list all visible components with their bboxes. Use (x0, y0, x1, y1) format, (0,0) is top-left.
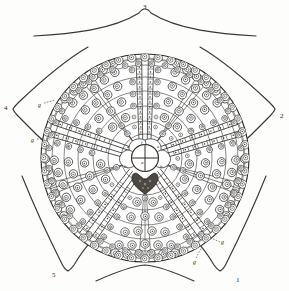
part-label-g-bottom: g (193, 259, 196, 265)
figure-number-5: 5 (52, 272, 56, 279)
figure-number-3: 3 (143, 4, 147, 11)
part-label-f-apical: f (141, 140, 142, 145)
part-label-e-right: e (157, 144, 159, 149)
urchin-illustration (0, 0, 289, 291)
part-label-b-right: b (160, 164, 163, 169)
part-label-b-left: b (124, 164, 127, 169)
figure-number-4: 4 (4, 105, 8, 112)
part-label-e-left: e (127, 144, 129, 149)
part-label-g-lower-right: g (221, 239, 224, 245)
figure-number-2: 2 (280, 113, 284, 120)
part-label-g-upper-left: g (38, 102, 41, 108)
part-label-g-left: g (31, 137, 34, 143)
engraved-plate: 3 2 4 5 1 g g g g a f e e b b (0, 0, 289, 291)
figure-number-1: 1 (236, 277, 240, 284)
part-label-a-center: a (141, 160, 144, 165)
